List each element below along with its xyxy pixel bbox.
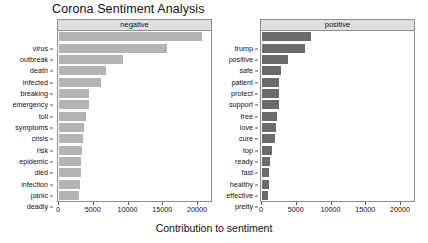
bar-fill — [262, 112, 277, 121]
x-tick-label-0: 0 — [259, 206, 263, 213]
y-tick-label-healthy: healthy — [230, 181, 253, 188]
bar-group-positive — [262, 31, 414, 201]
x-tick-label-15000: 15000 — [355, 206, 375, 213]
bar-fill — [262, 66, 281, 75]
bar-fill — [59, 168, 81, 177]
bar-toll — [59, 100, 89, 109]
bar-died — [59, 157, 81, 166]
y-axis-positive: trumppositivesafepatientprotectsupportfr… — [207, 31, 258, 202]
bar-infection — [59, 168, 81, 177]
y-axis-negative: virusoutbreakdeathinfectedbreakingemerge… — [0, 31, 53, 202]
bar-fill — [59, 157, 81, 166]
bar-fill — [59, 55, 123, 64]
sentiment-chart-figure: Corona Sentiment Analysis negative virus… — [0, 0, 428, 243]
bar-fill — [59, 89, 89, 98]
y-tick-label-support: support — [229, 102, 253, 109]
y-tick-label-protect: protect — [231, 90, 253, 97]
y-tick-mark — [50, 71, 53, 72]
facet-strip-negative: negative — [57, 19, 212, 31]
y-tick-label-ready: ready — [235, 158, 253, 165]
bar-fill — [262, 44, 305, 53]
panel-positive: positive — [260, 19, 415, 202]
bar-fill — [262, 191, 268, 200]
y-tick-mark — [255, 150, 258, 151]
x-tick-label-5000: 5000 — [85, 206, 101, 213]
facet-strip-positive: positive — [260, 19, 415, 31]
y-tick-label-emergency: emergency — [12, 102, 48, 109]
bar-symptoms — [59, 112, 86, 121]
bar-outbreak — [59, 44, 167, 53]
bar-fill — [59, 66, 106, 75]
page-title: Corona Sentiment Analysis — [52, 2, 205, 16]
y-tick-mark — [50, 82, 53, 83]
y-tick-mark — [255, 173, 258, 174]
x-tick-label-20000: 20000 — [390, 206, 410, 213]
y-tick-mark — [255, 82, 258, 83]
bar-epidemic — [59, 146, 82, 155]
bar-fill — [262, 78, 279, 87]
y-tick-mark — [255, 48, 258, 49]
bar-fill — [262, 180, 269, 189]
bar-fast — [262, 157, 270, 166]
bar-breaking — [59, 78, 101, 87]
y-tick-mark — [255, 116, 258, 117]
bar-infected — [59, 66, 106, 75]
facet-strip-label-positive: positive — [325, 21, 350, 29]
bar-crisis — [59, 123, 84, 132]
y-tick-label-effective: effective — [226, 192, 253, 199]
y-tick-label-positive: positive — [229, 56, 253, 63]
bar-fill — [59, 134, 83, 143]
bar-free — [262, 100, 279, 109]
bar-fill — [59, 112, 86, 121]
facet-strip-label-negative: negative — [120, 21, 148, 29]
y-tick-label-fast: fast — [241, 170, 253, 177]
x-axis-negative: 05000100001500020000 — [57, 202, 212, 218]
bar-ready — [262, 146, 272, 155]
bar-top — [262, 134, 275, 143]
bar-fill — [59, 191, 79, 200]
y-tick-label-breaking: breaking — [20, 90, 48, 97]
y-tick-label-crisis: crisis — [32, 136, 48, 143]
y-tick-mark — [50, 105, 53, 106]
bar-positive — [262, 44, 305, 53]
y-tick-label-love: love — [240, 124, 253, 131]
y-tick-mark — [50, 150, 53, 151]
y-tick-mark — [255, 128, 258, 129]
y-tick-label-outbreak: outbreak — [20, 56, 48, 63]
bar-emergency — [59, 89, 89, 98]
bar-virus — [59, 32, 202, 41]
bar-patient — [262, 66, 281, 75]
y-tick-label-virus: virus — [33, 45, 48, 52]
y-tick-mark — [255, 71, 258, 72]
bar-effective — [262, 180, 269, 189]
x-tick-label-20000: 20000 — [187, 206, 207, 213]
y-tick-label-infected: infected — [23, 79, 48, 86]
bar-fill — [59, 32, 202, 41]
x-tick-label-0: 0 — [56, 206, 60, 213]
y-tick-label-death: death — [30, 68, 48, 75]
bar-fill — [262, 134, 275, 143]
plot-area-positive — [260, 31, 415, 202]
y-tick-mark — [255, 207, 258, 208]
y-tick-mark — [50, 94, 53, 95]
y-tick-label-free: free — [241, 113, 253, 120]
bar-deadly — [59, 191, 79, 200]
bar-fill — [262, 32, 311, 41]
bar-fill — [59, 78, 101, 87]
bar-safe — [262, 55, 288, 64]
x-tick-label-15000: 15000 — [152, 206, 172, 213]
y-tick-label-cure: cure — [239, 136, 253, 143]
bar-trump — [262, 32, 311, 41]
bar-fill — [262, 168, 269, 177]
y-tick-label-safe: safe — [239, 68, 253, 75]
bar-group-negative — [59, 31, 211, 201]
bar-fill — [59, 123, 84, 132]
y-tick-mark — [50, 116, 53, 117]
y-tick-mark — [50, 196, 53, 197]
y-tick-label-symptoms: symptoms — [15, 124, 48, 131]
bar-healthy — [262, 168, 269, 177]
bar-pretty — [262, 191, 268, 200]
y-tick-label-pretty: pretty — [235, 204, 253, 211]
x-axis-positive: 05000100001500020000 — [260, 202, 415, 218]
bar-love — [262, 112, 277, 121]
